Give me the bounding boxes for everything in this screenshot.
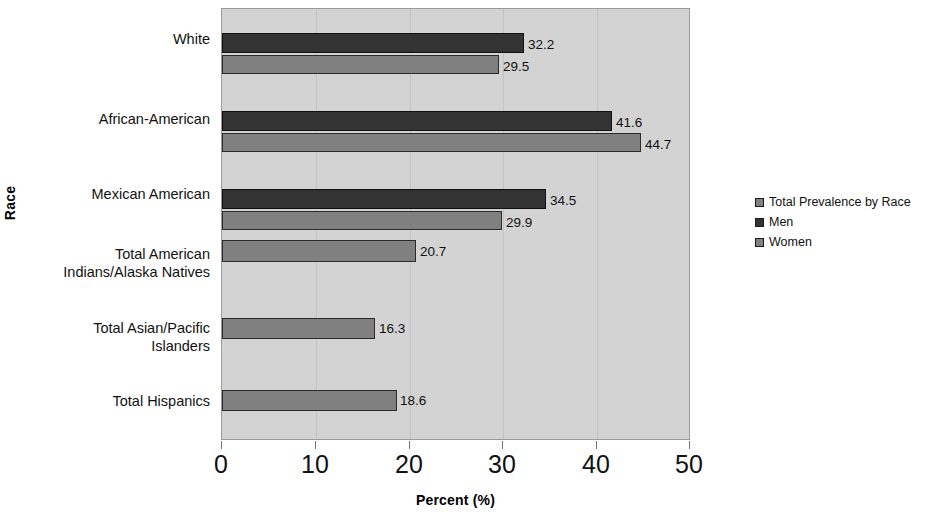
legend-item-men: Men — [755, 213, 925, 232]
value-label-asian-pacific-total: 16.3 — [379, 322, 405, 336]
x-tick-mark-10 — [315, 441, 316, 449]
category-label-mexican-american: Mexican American — [20, 185, 210, 203]
legend-item-total-prevalence: Total Prevalence by Race — [755, 193, 925, 212]
plot-area: 32.2 29.5 41.6 44.7 34.5 29.9 20.7 16.3 … — [221, 8, 690, 440]
category-label-american-indians: Total American Indians/Alaska Natives — [20, 245, 210, 281]
x-axis-title: Percent (%) — [221, 492, 690, 508]
y-axis-title: Race — [2, 173, 18, 233]
legend-label-total-prevalence: Total Prevalence by Race — [769, 196, 911, 209]
x-tick-label-40: 40 — [582, 450, 610, 478]
category-label-total-hispanics: Total Hispanics — [20, 392, 210, 410]
value-label-african-american-men: 41.6 — [616, 116, 642, 130]
value-label-african-american-women: 44.7 — [645, 138, 671, 152]
bar-white-women — [222, 55, 499, 74]
value-label-white-women: 29.5 — [503, 60, 529, 74]
y-axis-category-labels: White African-American Mexican American … — [20, 8, 216, 440]
x-tick-label-0: 0 — [214, 450, 228, 478]
gridline-40 — [597, 9, 598, 439]
bar-white-men — [222, 33, 524, 53]
bar-american-indians-total — [222, 240, 416, 262]
value-label-mexican-american-men: 34.5 — [550, 194, 576, 208]
x-tick-mark-0 — [221, 441, 222, 449]
legend-swatch-icon-men — [755, 218, 764, 227]
bar-mexican-american-women — [222, 211, 502, 230]
category-label-asian-pacific: Total Asian/Pacific Islanders — [20, 319, 210, 355]
x-tick-mark-20 — [409, 441, 410, 449]
legend-swatch-icon-women — [755, 238, 764, 247]
x-tick-label-50: 50 — [675, 450, 703, 478]
bar-hispanics-total — [222, 390, 397, 411]
x-tick-label-20: 20 — [395, 450, 423, 478]
x-tick-label-10: 10 — [301, 450, 329, 478]
bar-mexican-american-men — [222, 189, 546, 209]
value-label-american-indians-total: 20.7 — [420, 245, 446, 259]
category-label-white: White — [20, 30, 210, 48]
x-tick-mark-40 — [596, 441, 597, 449]
x-axis-tick-marks — [221, 441, 690, 451]
category-label-african-american: African-American — [20, 110, 210, 128]
legend-label-women: Women — [769, 236, 812, 249]
legend-label-men: Men — [769, 216, 793, 229]
chart-legend: Total Prevalence by Race Men Women — [755, 193, 925, 253]
legend-item-women: Women — [755, 233, 925, 252]
value-label-mexican-american-women: 29.9 — [506, 216, 532, 230]
value-label-hispanics-total: 18.6 — [400, 394, 426, 408]
value-label-white-men: 32.2 — [528, 38, 554, 52]
bar-african-american-women — [222, 133, 641, 152]
x-tick-mark-50 — [689, 441, 690, 449]
bar-chart: Race White African-American Mexican Amer… — [0, 0, 930, 523]
legend-swatch-icon-total-prevalence — [755, 198, 764, 207]
bar-african-american-men — [222, 111, 612, 131]
x-tick-label-30: 30 — [488, 450, 516, 478]
bar-asian-pacific-total — [222, 318, 375, 339]
x-tick-mark-30 — [502, 441, 503, 449]
